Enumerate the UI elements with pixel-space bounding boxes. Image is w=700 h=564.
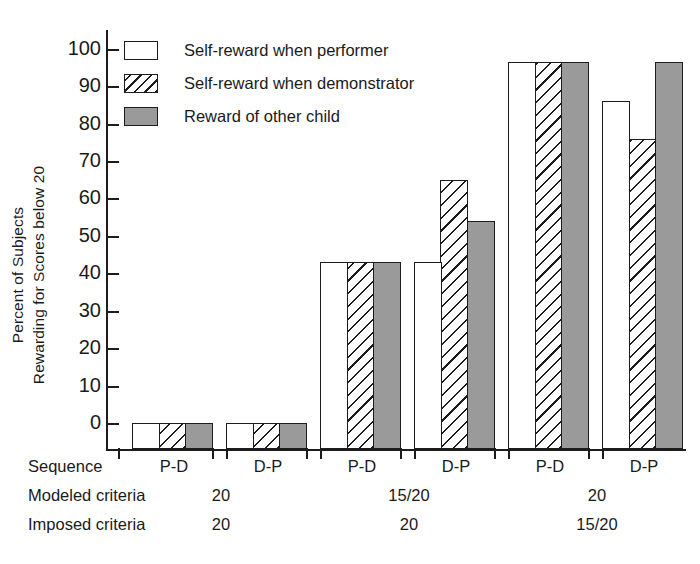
y-axis-title: Percent of Subjects Rewarding for Scores…	[0, 120, 56, 430]
y-axis-tick-label: 90	[55, 75, 101, 95]
annotation-cell: P-D	[160, 457, 188, 476]
annotation-row-label: Sequence	[28, 457, 102, 476]
y-axis-tick-label: 100	[55, 38, 101, 58]
annotation-cell: D-P	[254, 457, 282, 476]
annotation-cell: 15/20	[576, 515, 617, 534]
annotation-cell: D-P	[442, 457, 470, 476]
annotation-cell: 20	[400, 515, 418, 534]
legend-item: Reward of other child	[124, 100, 454, 133]
y-axis-tick-label: 0	[55, 412, 101, 432]
bottom-annotation-table: SequenceP-DD-PP-DD-PP-DD-PModeled criter…	[0, 455, 700, 560]
bar	[467, 221, 495, 449]
y-axis-tick-label: 30	[55, 300, 101, 320]
annotation-row-label: Imposed criteria	[28, 515, 145, 534]
bar	[534, 62, 562, 449]
annotation-cell: P-D	[348, 457, 376, 476]
annotation-row: Modeled criteria2015/2020	[0, 484, 700, 513]
bar-chart-figure: Percent of Subjects Rewarding for Scores…	[0, 0, 700, 564]
annotation-cell: P-D	[536, 457, 564, 476]
y-axis-tick: 70	[108, 161, 119, 163]
bar	[226, 423, 254, 449]
bar	[414, 262, 442, 449]
bar	[628, 139, 656, 449]
y-axis-tick: 80	[108, 124, 119, 126]
annotation-cell: D-P	[630, 457, 658, 476]
y-axis-tick-label: 80	[55, 113, 101, 133]
legend: Self-reward when performerSelf-reward wh…	[124, 34, 454, 133]
y-axis-tick: 100	[108, 49, 119, 51]
bar	[252, 423, 280, 449]
legend-label: Self-reward when performer	[184, 41, 389, 60]
bar	[508, 62, 536, 449]
annotation-cell: 20	[212, 515, 230, 534]
y-axis-tick: 10	[108, 386, 119, 388]
y-axis-tick-label: 60	[55, 187, 101, 207]
bar	[279, 423, 307, 449]
y-axis-tick: 40	[108, 273, 119, 275]
y-axis-title-line2: Rewarding for Scores below 20	[28, 166, 49, 384]
annotation-cell: 20	[588, 486, 606, 505]
legend-swatch-white	[124, 41, 158, 60]
annotation-cell: 20	[212, 486, 230, 505]
legend-label: Reward of other child	[184, 107, 340, 126]
legend-swatch-gray	[124, 107, 158, 126]
annotation-row: Imposed criteria202015/20	[0, 513, 700, 542]
legend-item: Self-reward when performer	[124, 34, 454, 67]
legend-label: Self-reward when demonstrator	[184, 74, 414, 93]
annotation-cell: 15/20	[388, 486, 429, 505]
bar	[373, 262, 401, 449]
y-axis-tick: 0	[108, 423, 119, 425]
bar	[440, 180, 468, 449]
bar	[320, 262, 348, 449]
y-axis-tick: 50	[108, 236, 119, 238]
y-axis-tick: 90	[108, 86, 119, 88]
y-axis-tick: 60	[108, 198, 119, 200]
bar	[561, 62, 589, 449]
y-axis-title-line1: Percent of Subjects	[9, 207, 26, 343]
y-axis-tick-label: 50	[55, 225, 101, 245]
bar	[185, 423, 213, 449]
annotation-row-label: Modeled criteria	[28, 486, 145, 505]
y-axis-tick: 30	[108, 311, 119, 313]
bar	[132, 423, 160, 449]
y-axis-tick-label: 10	[55, 375, 101, 395]
y-axis-tick-label: 70	[55, 150, 101, 170]
legend-item: Self-reward when demonstrator	[124, 67, 454, 100]
legend-swatch-hatch	[124, 74, 158, 93]
x-axis-line	[106, 449, 686, 451]
y-axis-tick-label: 40	[55, 262, 101, 282]
bar	[655, 62, 683, 449]
bar	[346, 262, 374, 449]
y-axis-tick: 20	[108, 348, 119, 350]
annotation-row: SequenceP-DD-PP-DD-PP-DD-P	[0, 455, 700, 484]
bar	[158, 423, 186, 449]
bar	[602, 101, 630, 449]
y-axis-tick-label: 20	[55, 337, 101, 357]
